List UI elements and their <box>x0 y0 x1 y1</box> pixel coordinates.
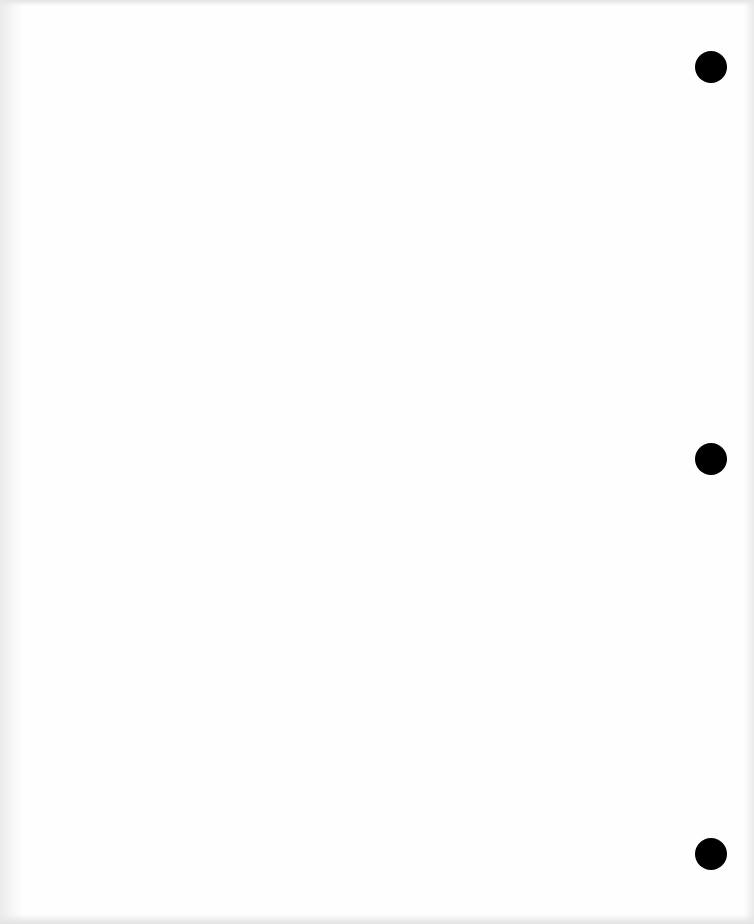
punch-hole-middle <box>695 443 727 475</box>
blank-paper-sheet <box>0 0 754 924</box>
punch-hole-bottom <box>695 838 727 870</box>
paper-top-edge-shadow <box>0 0 754 6</box>
paper-bottom-edge-shadow <box>0 914 754 924</box>
punch-hole-top <box>695 51 727 83</box>
paper-right-edge-shadow <box>744 0 754 924</box>
paper-left-edge-shadow <box>0 0 22 924</box>
